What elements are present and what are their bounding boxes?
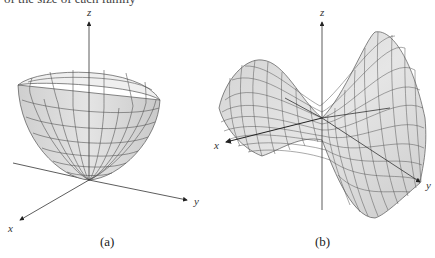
axis-label-x: x [213, 139, 219, 151]
caption-a: (a) [100, 234, 114, 249]
figure-b-saddle: z x y (b) [213, 6, 431, 249]
axis-y [89, 180, 187, 200]
axis-x [20, 180, 89, 220]
axis-label-y: y [425, 179, 431, 191]
figure-canvas: z y x (a) [0, 0, 435, 258]
caption-b: (b) [315, 234, 330, 249]
figure-a-paraboloid: z y x (a) [7, 6, 199, 249]
axis-label-z: z [319, 6, 325, 18]
axis-label-x: x [7, 222, 13, 234]
axis-label-z: z [86, 6, 92, 18]
axis-label-y: y [193, 195, 199, 207]
